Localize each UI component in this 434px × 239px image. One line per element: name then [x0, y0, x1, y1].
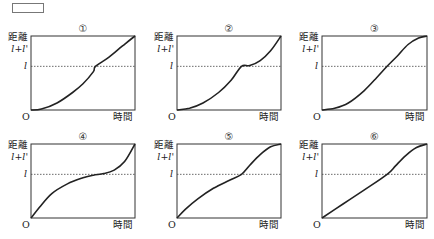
panel-2-ytick-top: l+l': [157, 43, 174, 54]
panel-2-curve: [177, 36, 281, 110]
panel-1-origin: O: [22, 111, 30, 122]
panel-4-frame: [31, 144, 135, 218]
panel-2-title: ②: [225, 23, 234, 34]
charts-canvas: ①距離l+l'lO時間②距離l+l'lO時間③距離l+l'lO時間④距離l+l'…: [0, 0, 434, 239]
panel-3-title: ③: [370, 23, 379, 34]
panel-5-curve: [177, 144, 281, 218]
panel-6-xlabel: 時間: [405, 219, 425, 230]
panel-4-xlabel: 時間: [113, 219, 133, 230]
panel-4-ylabel: 距離: [8, 139, 28, 150]
panel-1-xlabel: 時間: [113, 111, 133, 122]
panel-6-ytick-top: l+l': [302, 151, 319, 162]
panel-2-xlabel: 時間: [259, 111, 279, 122]
panel-3-ytick-l: l: [315, 60, 318, 71]
panel-6-curve: [322, 144, 427, 218]
panel-1-title: ①: [79, 23, 88, 34]
panel-4-title: ④: [79, 131, 88, 142]
panel-5-origin: O: [168, 219, 176, 230]
panel-6-ytick-l: l: [315, 168, 318, 179]
panel-3-xlabel: 時間: [405, 111, 425, 122]
panel-3-origin: O: [313, 111, 321, 122]
panel-3-ylabel: 距離: [299, 31, 319, 42]
panel-5-ylabel: 距離: [154, 139, 174, 150]
panel-2-origin: O: [168, 111, 176, 122]
panel-3-ytick-top: l+l': [302, 43, 319, 54]
panel-4-origin: O: [22, 219, 30, 230]
panel-5-title: ⑤: [225, 131, 234, 142]
panel-5-ytick-l: l: [170, 168, 173, 179]
panel-2-ytick-l: l: [170, 60, 173, 71]
panel-2-ylabel: 距離: [154, 31, 174, 42]
panel-1-frame: [31, 36, 135, 110]
panel-6-origin: O: [313, 219, 321, 230]
panel-1-ylabel: 距離: [8, 31, 28, 42]
panel-4-ytick-top: l+l': [11, 151, 28, 162]
panel-1-ytick-l: l: [24, 60, 27, 71]
panel-3-curve: [322, 36, 427, 110]
panel-3-frame: [322, 36, 427, 110]
panel-5-ytick-top: l+l': [157, 151, 174, 162]
panel-5-xlabel: 時間: [259, 219, 279, 230]
panel-1-ytick-top: l+l': [11, 43, 28, 54]
panel-6-ylabel: 距離: [299, 139, 319, 150]
panel-1-curve: [31, 36, 135, 110]
panel-4-curve: [31, 144, 135, 218]
panel-2-frame: [177, 36, 281, 110]
panel-6-title: ⑥: [370, 131, 379, 142]
panel-4-ytick-l: l: [24, 168, 27, 179]
